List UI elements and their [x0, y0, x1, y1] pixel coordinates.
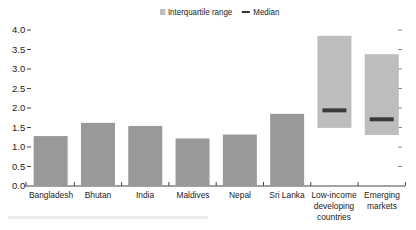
y-tick-label: 3.5: [0, 44, 24, 55]
x-label-line: Nepal: [213, 189, 266, 200]
x-category-label: Nepal: [213, 189, 266, 200]
bar-bhutan: [81, 123, 115, 186]
median-marker: [322, 108, 346, 112]
x-category-label: Sri Lanka: [261, 189, 314, 200]
y-tick-label: 1.0: [0, 141, 24, 152]
y-tick-label: 0.0: [0, 180, 24, 191]
y-tick-label: 3.0: [0, 63, 24, 74]
x-label-line: Bhutan: [72, 189, 125, 200]
bar-maldives: [176, 138, 210, 186]
x-label-line: Bangladesh: [24, 189, 77, 200]
iqr-box: [365, 54, 399, 135]
x-label-line: Sri Lanka: [261, 189, 314, 200]
x-category-label: Maldives: [166, 189, 219, 200]
x-label-line: Maldives: [166, 189, 219, 200]
x-category-label: Low-incomedevelopingcountries: [308, 189, 361, 222]
bar-nepal: [223, 135, 257, 186]
x-category-label: Bhutan: [72, 189, 125, 200]
y-tick-label: 4.0: [0, 24, 24, 35]
x-category-label: Bangladesh: [24, 189, 77, 200]
x-label-line: countries: [308, 211, 361, 222]
x-label-line: developing: [308, 200, 361, 211]
y-tick-label: 2.0: [0, 102, 24, 113]
median-marker: [370, 117, 394, 121]
x-label-line: markets: [355, 200, 408, 211]
x-label-line: Emerging: [355, 189, 408, 200]
x-category-label: Emergingmarkets: [355, 189, 408, 211]
y-tick-label: 0.5: [0, 161, 24, 172]
x-category-label: India: [119, 189, 172, 200]
bar-sri-lanka: [270, 114, 304, 186]
bar-bangladesh: [34, 136, 68, 186]
source-note: [8, 216, 208, 219]
y-tick-label: 1.5: [0, 122, 24, 133]
iqr-box: [317, 36, 351, 128]
chart-area: Interquartile range Median 0.00.51.01.52…: [0, 0, 416, 230]
y-tick-label: 2.5: [0, 83, 24, 94]
x-label-line: India: [119, 189, 172, 200]
bar-india: [128, 126, 162, 186]
x-label-line: Low-income: [308, 189, 361, 200]
